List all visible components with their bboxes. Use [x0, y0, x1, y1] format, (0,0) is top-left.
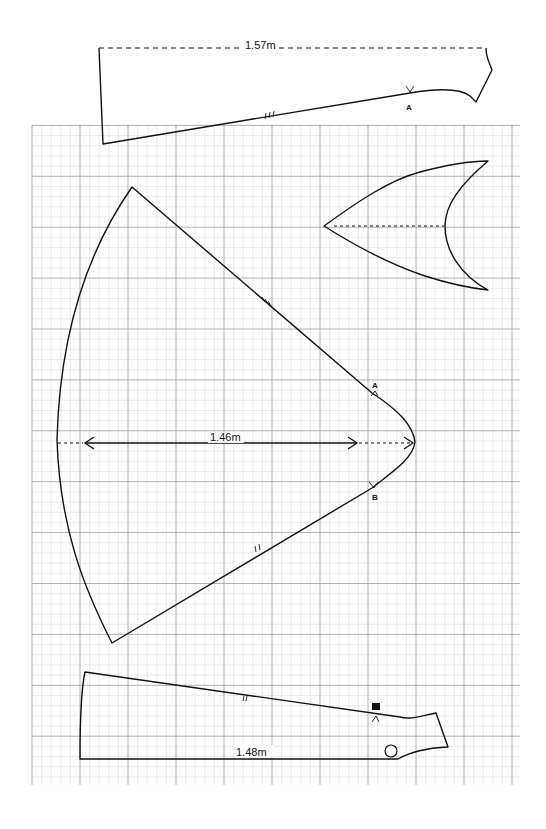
marker-a-wedge: A [372, 381, 378, 390]
marker-b-wedge: B [372, 493, 378, 502]
dimension-label-top: 1.57m [245, 39, 276, 51]
wedge-panel-piece: A B 1.46m [57, 187, 415, 643]
pattern-diagram: A 1.57m A B 1.46m 1.48m [0, 0, 546, 829]
graph-paper-grid [32, 125, 520, 785]
circle-mark [385, 745, 397, 757]
dimension-label-bottom: 1.48m [236, 746, 267, 758]
marker-a-top: A [406, 103, 412, 112]
top-panel-piece: A 1.57m [99, 38, 492, 144]
dimension-label-wedge: 1.46m [210, 431, 241, 443]
